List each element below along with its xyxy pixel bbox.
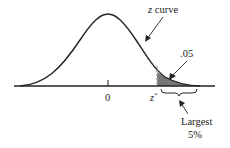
curve-label-arrow [147, 17, 163, 39]
z-curve-diagram: z curve .05 0 z* Largest 5% [0, 0, 230, 148]
arrow-head-icon [145, 35, 151, 42]
region-label-line2: 5% [188, 129, 202, 140]
arrow-head-icon [179, 100, 185, 107]
curve-label: z curve [147, 4, 178, 15]
critical-value-label: z* [149, 92, 157, 103]
region-brace [161, 89, 197, 96]
tail-area-arrow [172, 61, 187, 76]
region-label-line1: Largest [181, 116, 212, 127]
arrow-head-icon [169, 73, 176, 80]
upper-tail-shaded-region [157, 72, 195, 86]
tail-area-label: .05 [180, 48, 193, 59]
center-label: 0 [105, 92, 110, 103]
